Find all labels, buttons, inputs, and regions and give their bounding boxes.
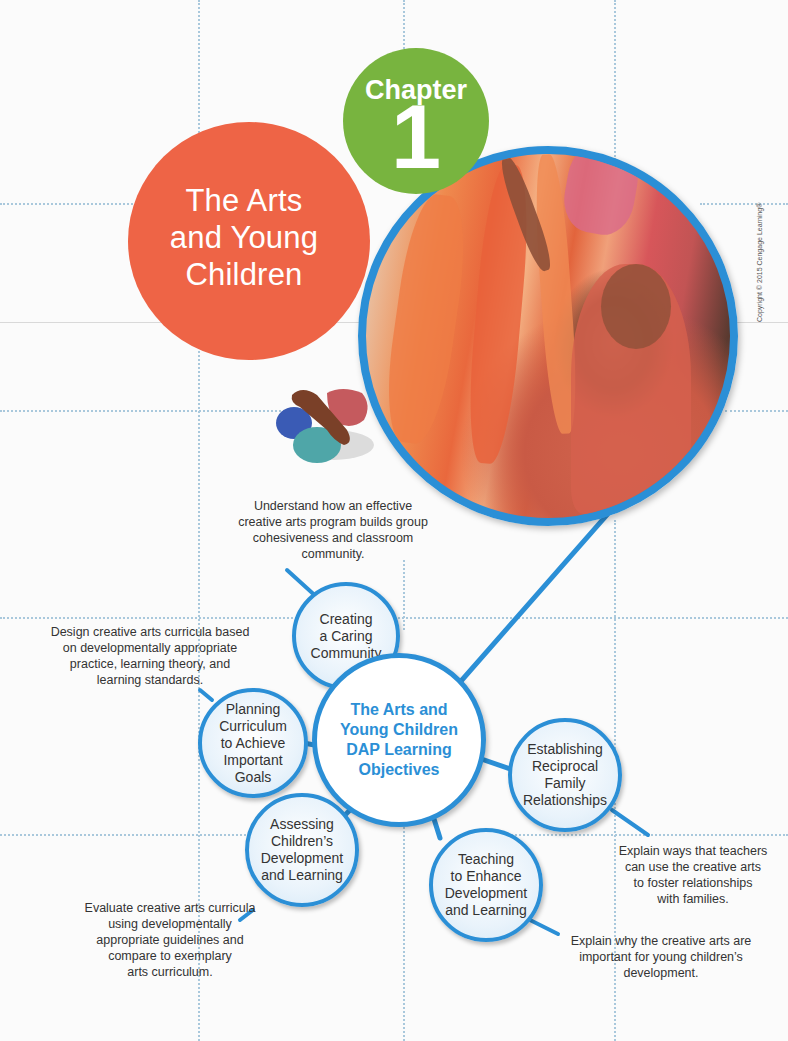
objective-description-creating: Understand how an effective creative art… — [218, 498, 448, 562]
chapter-number-circle: Chapter 1 — [343, 48, 489, 194]
chapter-photo — [358, 146, 738, 526]
chapter-title-circle: The Arts and Young Children — [128, 122, 370, 360]
objective-node-establishing[interactable]: Establishing Reciprocal Family Relations… — [508, 718, 622, 832]
connector-establishing-desc — [612, 810, 648, 835]
connector-teaching-desc — [530, 920, 558, 934]
connector-planning-desc — [200, 690, 212, 700]
connector-center-photo — [440, 500, 620, 705]
photo-copyright: Copyright © 2015 Cengage Learning® — [756, 203, 763, 322]
objective-node-planning[interactable]: Planning Curriculum to Achieve Important… — [198, 688, 308, 798]
chapter-number: 1 — [343, 92, 489, 182]
objective-node-assessing[interactable]: Assessing Children’s Development and Lea… — [245, 793, 359, 907]
clay-sculpture-image — [272, 375, 382, 470]
objective-description-establishing: Explain ways that teachers can use the c… — [608, 843, 778, 907]
objective-node-teaching[interactable]: Teaching to Enhance Development and Lear… — [429, 828, 543, 942]
objective-description-planning: Design creative arts curricula based on … — [45, 624, 255, 688]
chapter-title: The Arts and Young Children — [170, 182, 318, 293]
objective-description-assessing: Evaluate creative arts curricula using d… — [75, 900, 265, 980]
objective-description-teaching: Explain why the creative arts are import… — [556, 933, 766, 981]
center-objectives-node[interactable]: The Arts and Young Children DAP Learning… — [312, 653, 486, 827]
